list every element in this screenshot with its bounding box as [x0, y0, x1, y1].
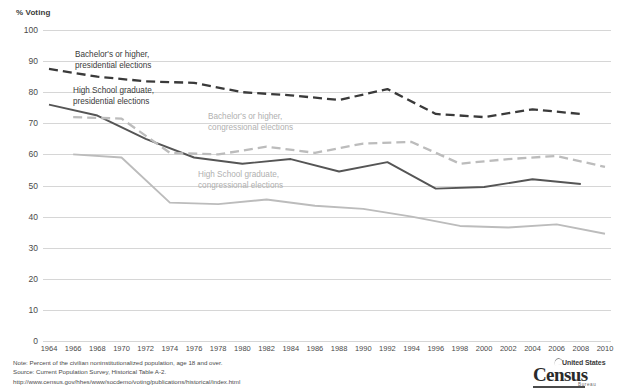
- y-tick-40: 40: [0, 212, 38, 222]
- x-tick-1978: 1978: [210, 344, 227, 353]
- x-tick-1974: 1974: [162, 344, 179, 353]
- series-lines: [43, 30, 611, 341]
- y-axis-tick-labels: 100 90 80 70 60 50 40 30 20 10 0: [0, 30, 38, 341]
- x-tick-1970: 1970: [113, 344, 130, 353]
- annotation-line1: Bachelor's or higher,: [208, 111, 293, 122]
- series-line-1: [49, 105, 581, 189]
- y-tick-20: 20: [0, 274, 38, 284]
- y-tick-100: 100: [0, 25, 38, 35]
- x-tick-1968: 1968: [89, 344, 106, 353]
- footer-notes: Note: Percent of the civilian noninstitu…: [13, 358, 240, 386]
- annotation-line2: presidential elections: [73, 96, 154, 107]
- annotation-line2: congressional elections: [208, 122, 293, 133]
- footer-note: Note: Percent of the civilian noninstitu…: [13, 358, 240, 367]
- x-tick-2000: 2000: [476, 344, 493, 353]
- y-tick-50: 50: [0, 181, 38, 191]
- y-tick-30: 30: [0, 243, 38, 253]
- logo-bureau: Bureau: [578, 382, 596, 387]
- footer-source: Source: Current Population Survey, Histo…: [13, 367, 240, 376]
- annotation-hs-congressional: High School graduate, congressional elec…: [198, 169, 283, 191]
- y-tick-70: 70: [0, 118, 38, 128]
- annotation-bachelors-congressional: Bachelor's or higher, congressional elec…: [208, 111, 293, 133]
- footer-url[interactable]: http://www.census.gov/hhes/www/socdemo/v…: [13, 377, 240, 386]
- plot-area: Bachelor's or higher, presidential elect…: [43, 30, 611, 341]
- annotation-line1: Bachelor's or higher,: [75, 49, 151, 60]
- annotation-line1: High School graduate,: [73, 85, 154, 96]
- x-tick-1986: 1986: [307, 344, 324, 353]
- annotation-bachelors-presidential: Bachelor's or higher, presidential elect…: [75, 49, 151, 71]
- y-tick-10: 10: [0, 305, 38, 315]
- census-bureau-logo: United States Census Bureau: [532, 358, 618, 388]
- annotation-line2: presidential elections: [75, 60, 151, 71]
- x-tick-2010: 2010: [597, 344, 614, 353]
- y-tick-80: 80: [0, 87, 38, 97]
- x-tick-2008: 2008: [572, 344, 589, 353]
- x-tick-1980: 1980: [234, 344, 251, 353]
- x-tick-1992: 1992: [379, 344, 396, 353]
- x-tick-1984: 1984: [282, 344, 299, 353]
- x-tick-2004: 2004: [524, 344, 541, 353]
- x-tick-1982: 1982: [258, 344, 275, 353]
- x-tick-1994: 1994: [403, 344, 420, 353]
- y-tick-0: 0: [0, 336, 38, 346]
- x-tick-1976: 1976: [186, 344, 203, 353]
- annotation-hs-presidential: High School graduate, presidential elect…: [73, 85, 154, 107]
- series-line-2: [73, 117, 605, 167]
- gridline-0: [43, 341, 611, 342]
- annotation-line1: High School graduate,: [198, 169, 283, 180]
- x-tick-1996: 1996: [427, 344, 444, 353]
- chart-title-clipped: [0, 0, 624, 3]
- x-tick-1990: 1990: [355, 344, 372, 353]
- x-tick-1966: 1966: [65, 344, 82, 353]
- annotation-line2: congressional elections: [198, 180, 283, 191]
- x-tick-1964: 1964: [41, 344, 58, 353]
- x-tick-1988: 1988: [331, 344, 348, 353]
- y-tick-90: 90: [0, 56, 38, 66]
- x-tick-1998: 1998: [452, 344, 469, 353]
- x-tick-2006: 2006: [548, 344, 565, 353]
- x-tick-2002: 2002: [500, 344, 517, 353]
- x-axis-tick-labels: 1964196619681970197219741976197819801982…: [43, 344, 611, 358]
- y-tick-60: 60: [0, 149, 38, 159]
- y-axis-title: % Voting: [16, 8, 50, 17]
- x-tick-1972: 1972: [137, 344, 154, 353]
- series-line-3: [73, 154, 605, 233]
- voting-rates-line-chart: % Voting 100 90 80 70 60 50 40 30 20 10 …: [0, 0, 624, 390]
